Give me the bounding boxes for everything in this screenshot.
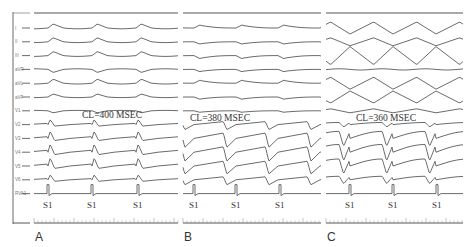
trace-v6	[34, 175, 178, 181]
trace-avl	[326, 77, 463, 89]
trace-v3	[326, 131, 463, 145]
panels: S1S1S1CL=400 MSECAS1S1S1CL=380 MSECBS1S1…	[34, 13, 463, 244]
lead-label-i: I	[15, 26, 16, 31]
stimulus-label-s1: S1	[345, 200, 355, 210]
panel-c: S1S1S1CL=360 MSECC	[326, 13, 463, 244]
trace-ii	[34, 38, 178, 43]
lead-label-v1: V1	[15, 108, 21, 113]
cycle-length-label: CL=400 MSEC	[82, 110, 142, 120]
trace-iii	[34, 52, 178, 57]
trace-v2	[34, 120, 178, 126]
trace-avr	[326, 69, 463, 70]
lead-label-v2: V2	[15, 122, 21, 127]
trace-avr	[34, 69, 178, 72]
trace-avl	[183, 80, 321, 83]
panel-label: B	[184, 230, 192, 244]
trace-rva1	[326, 185, 463, 196]
lead-label-v4: V4	[15, 150, 21, 155]
trace-v4	[183, 147, 321, 161]
trace-v5	[183, 161, 321, 174]
stimulus-label-s1: S1	[87, 200, 97, 210]
trace-avf	[326, 91, 463, 103]
trace-i	[34, 24, 178, 29]
lead-labels: IIIIIIaVRaVLaVFV1V2V3V4V5V6RVA1	[15, 26, 30, 197]
trace-iii	[326, 47, 463, 65]
ecg-tracing-figure: IIIIIIaVRaVLaVFV1V2V3V4V5V6RVA1 S1S1S1CL…	[0, 0, 472, 247]
stimulus-label-s1: S1	[231, 200, 241, 210]
trace-v5	[326, 159, 463, 173]
lead-label-v5: V5	[15, 164, 21, 169]
lead-label-v3: V3	[15, 136, 21, 141]
lead-label-v6: V6	[15, 177, 21, 182]
stimulus-label-s1: S1	[189, 200, 199, 210]
trace-avl	[34, 79, 178, 84]
trace-rva1	[34, 185, 178, 196]
trace-v4	[34, 145, 178, 155]
trace-v6	[183, 177, 321, 185]
lead-label-ii: II	[15, 39, 18, 44]
stimulus-label-s1: S1	[43, 200, 53, 210]
trace-v4	[326, 145, 463, 160]
trace-ii	[183, 42, 321, 44]
trace-v5	[34, 159, 178, 169]
cycle-length-label: CL=360 MSEC	[356, 113, 416, 123]
trace-ii	[326, 38, 463, 46]
trace-i	[183, 25, 321, 28]
trace-v3	[34, 132, 178, 140]
trace-avf	[34, 94, 178, 97]
trace-avr	[183, 69, 321, 71]
trace-avf	[183, 97, 321, 99]
lead-label-iii: III	[15, 53, 19, 58]
stimulus-label-s1: S1	[388, 200, 398, 210]
trace-i	[326, 22, 463, 34]
stimulus-label-s1: S1	[275, 200, 285, 210]
stimulus-label-s1: S1	[133, 200, 143, 210]
trace-v3	[183, 133, 321, 147]
cycle-length-label: CL=380 MSEC	[190, 113, 250, 123]
trace-v2	[326, 123, 463, 127]
panel-a: S1S1S1CL=400 MSECA	[34, 13, 178, 244]
trace-rva1	[183, 185, 321, 196]
panel-b: S1S1S1CL=380 MSECB	[183, 13, 321, 244]
stimulus-label-s1: S1	[432, 200, 442, 210]
panel-label: C	[327, 230, 336, 244]
trace-iii	[183, 56, 321, 59]
panel-label: A	[35, 230, 43, 244]
trace-v6	[326, 176, 463, 183]
